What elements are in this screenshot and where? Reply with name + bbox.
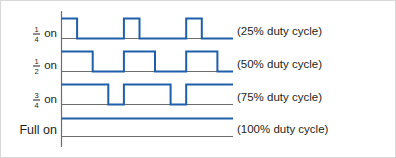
waveform-75 <box>62 85 234 105</box>
waveform-25 <box>62 19 234 39</box>
waveform-50 <box>62 52 234 72</box>
waveform-plot <box>1 1 396 158</box>
pwm-duty-cycle-figure: 1 4 on 1 2 on 3 4 on Full on (25% duty c… <box>0 0 396 158</box>
waveform-traces <box>62 19 234 119</box>
